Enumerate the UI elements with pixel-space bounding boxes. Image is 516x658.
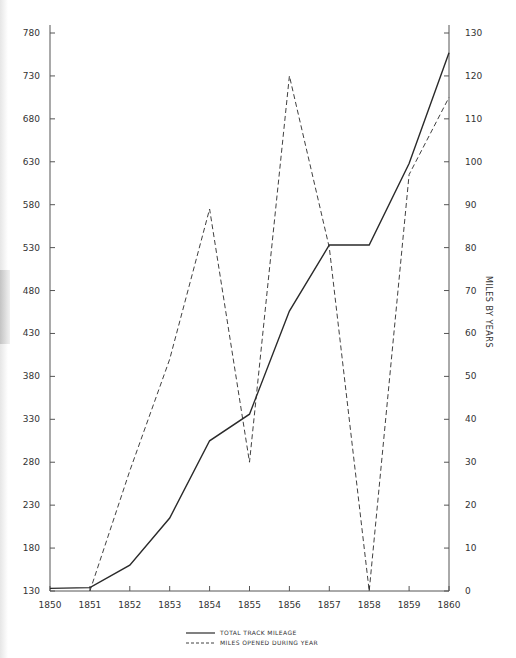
- x-tick-label: 1851: [78, 600, 101, 610]
- x-tick-label: 1852: [118, 600, 141, 610]
- x-tick-label: 1860: [438, 600, 461, 610]
- right-axis-title: MILES BY YEARS: [484, 276, 493, 348]
- left-tick-label: 130: [23, 586, 40, 596]
- right-tick-label: 50: [465, 371, 477, 381]
- left-tick-label: 780: [23, 28, 40, 38]
- right-tick-label: 30: [465, 457, 477, 467]
- series-miles-opened-line: [90, 76, 449, 591]
- axes: [50, 25, 449, 591]
- x-tick-label: 1859: [398, 600, 421, 610]
- series-total-mileage-line: [50, 53, 449, 589]
- left-tick-label: 630: [23, 157, 40, 167]
- left-tick-label: 680: [23, 114, 40, 124]
- x-tick-label: 1855: [238, 600, 261, 610]
- right-tick-label: 70: [465, 286, 477, 296]
- left-tick-label: 380: [23, 371, 40, 381]
- right-axis-ticks: 0102030405060708090100110120130: [444, 28, 482, 596]
- right-tick-label: 20: [465, 500, 477, 510]
- x-tick-label: 1850: [39, 600, 62, 610]
- line-chart: 1301802302803303804304805305806306807307…: [0, 0, 516, 658]
- legend-label-total: TOTAL TRACK MILEAGE: [219, 629, 297, 636]
- right-tick-label: 0: [465, 586, 471, 596]
- right-tick-label: 130: [465, 28, 482, 38]
- left-tick-label: 430: [23, 328, 40, 338]
- x-axis-ticks: 1850185118521853185418551856185718581859…: [39, 586, 461, 610]
- series-group: [50, 53, 449, 591]
- left-tick-label: 480: [23, 286, 40, 296]
- left-tick-label: 280: [23, 457, 40, 467]
- right-tick-label: 90: [465, 200, 477, 210]
- right-tick-label: 100: [465, 157, 482, 167]
- left-tick-label: 580: [23, 200, 40, 210]
- right-tick-label: 110: [465, 114, 482, 124]
- left-tick-label: 530: [23, 243, 40, 253]
- left-tick-label: 330: [23, 414, 40, 424]
- right-tick-label: 120: [465, 71, 482, 81]
- left-tick-label: 230: [23, 500, 40, 510]
- right-tick-label: 80: [465, 243, 477, 253]
- right-tick-label: 10: [465, 543, 477, 553]
- legend-label-opened: MILES OPENED DURING YEAR: [220, 639, 318, 646]
- right-tick-label: 40: [465, 414, 477, 424]
- x-tick-label: 1857: [318, 600, 341, 610]
- x-tick-label: 1854: [198, 600, 221, 610]
- x-tick-label: 1856: [278, 600, 301, 610]
- left-tick-label: 730: [23, 71, 40, 81]
- x-tick-label: 1853: [158, 600, 181, 610]
- left-tick-label: 180: [23, 543, 40, 553]
- right-tick-label: 60: [465, 328, 477, 338]
- legend: TOTAL TRACK MILEAGE MILES OPENED DURING …: [186, 629, 318, 646]
- x-tick-label: 1858: [358, 600, 381, 610]
